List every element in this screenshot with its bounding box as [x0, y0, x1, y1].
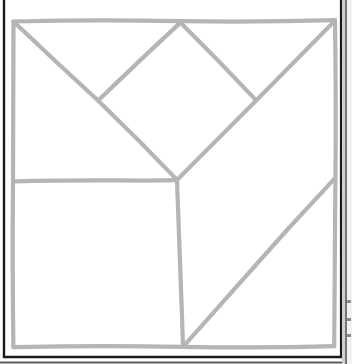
horizontal-mid-left	[13, 180, 177, 181]
square-right-edge	[334, 20, 336, 346]
page-gutter-shading-outer	[347, 0, 352, 364]
edge-tick-2-icon	[347, 318, 351, 321]
edge-tick-1-icon	[347, 300, 351, 303]
figure-page	[0, 0, 352, 364]
square-bottom-edge	[13, 346, 334, 347]
square-left-edge	[13, 22, 14, 348]
edge-tick-3-icon	[347, 334, 351, 337]
tangram-figure	[0, 0, 352, 364]
page-gutter-shading	[342, 0, 346, 364]
square-top-edge	[14, 20, 336, 21]
